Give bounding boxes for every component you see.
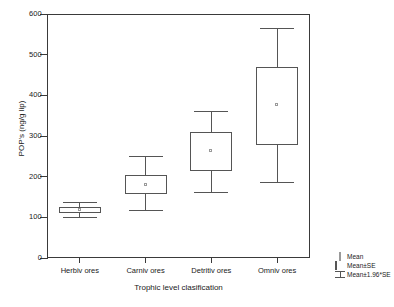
whisker-cap-upper [260, 28, 294, 29]
y-axis-title: POP's (ng/g lip) [17, 59, 26, 199]
x-axis-tick [211, 258, 212, 263]
mean-marker [144, 183, 147, 186]
whisker-line-lower [211, 171, 212, 191]
whisker-cap-lower [129, 210, 163, 211]
legend-label: Mean±SE [347, 262, 376, 269]
whisker-cap-upper [194, 111, 228, 112]
x-axis-title: Trophic level clasification [47, 283, 310, 292]
whisker-line-lower [145, 194, 146, 210]
box-icon [335, 261, 346, 270]
legend-item-mean: Mean [334, 252, 394, 261]
whisker-cap-lower [260, 182, 294, 183]
legend-label: Mean [347, 253, 363, 260]
legend: Mean Mean±SE Mean±1.96*SE [334, 252, 394, 279]
box-se [256, 67, 298, 145]
whisker-cap-upper [63, 202, 97, 203]
mean-marker [78, 208, 81, 211]
whisker-line-upper [211, 111, 212, 132]
box-plot-figure: 0100200300400500600 POP's (ng/g lip) Her… [0, 0, 394, 307]
x-axis-tick [79, 258, 80, 263]
legend-label: Mean±1.96*SE [347, 271, 391, 278]
whisker-line-upper [145, 156, 146, 176]
legend-item-se: Mean±SE [334, 261, 394, 270]
whisker-cap-lower [194, 192, 228, 193]
y-axis-tick-label: 100 [12, 213, 42, 221]
y-axis-tick-label: 0 [12, 254, 42, 262]
y-axis-tick-label: 600 [12, 10, 42, 18]
legend-item-ci: Mean±1.96*SE [334, 270, 394, 279]
whisker-line-upper [277, 28, 278, 67]
x-axis-tick [277, 258, 278, 263]
x-axis-tick-label: Omniv ores [237, 266, 317, 275]
x-axis-tick [145, 258, 146, 263]
mean-marker [209, 149, 212, 152]
whisker-cap-upper [129, 156, 163, 157]
y-axis-tick-label: 500 [12, 51, 42, 59]
whisker-line-lower [277, 145, 278, 182]
mean-marker [275, 103, 278, 106]
whisker-icon [335, 270, 346, 279]
whisker-cap-lower [63, 217, 97, 218]
mean-marker-icon [335, 252, 346, 261]
